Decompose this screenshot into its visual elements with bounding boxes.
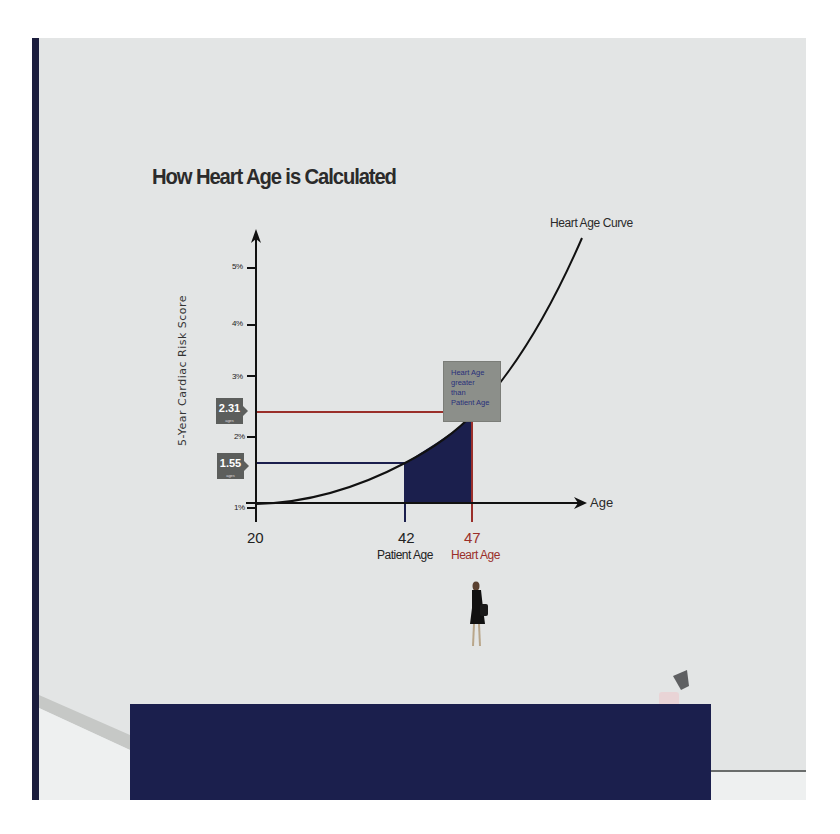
x-tick-42: 42 [398,529,415,546]
badge-value: 1.55 [220,457,241,469]
presenter-figure [466,580,490,652]
navy-podium [130,704,711,800]
risk-badge-patient-age: 1.55 ages [217,453,244,479]
callout-line: than [451,388,500,398]
callout-line: Patient Age [451,398,500,408]
callout-line: Heart Age [451,368,500,378]
y-tick-2: 2% [234,432,245,441]
callout-box: Heart Age greater than Patient Age [443,361,501,422]
y-tick-1: 1% [234,503,245,512]
y-axis-label: 5-Year Cardiac Risk Score [176,295,189,446]
shaded-area [405,417,472,503]
y-tick-5: 5% [232,262,243,271]
callout-line: greater [451,378,500,388]
badge-value: 2.31 [219,402,240,414]
patient-age-caption: Patient Age [377,548,433,562]
desk-lamp-decoration [655,668,705,708]
x-tick-20: 20 [247,529,264,546]
badge-sub: ages [216,418,243,423]
x-tick-47: 47 [464,529,481,546]
badge-sub: ages [217,473,244,478]
curve-label: Heart Age Curve [550,216,633,230]
x-axis-label: Age [590,495,613,510]
heart-age-caption: Heart Age [451,548,500,562]
y-tick-3: 3% [232,372,243,381]
y-tick-4: 4% [232,319,243,328]
risk-badge-heart-age: 2.31 ages [216,398,243,424]
